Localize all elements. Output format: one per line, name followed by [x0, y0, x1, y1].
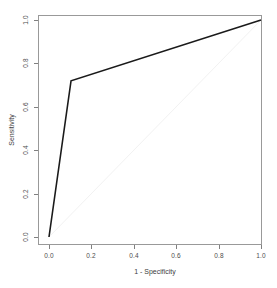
x-tick-label: 1.0 [256, 253, 266, 260]
y-tick-label: 0.2 [23, 189, 30, 199]
x-tick-label: 0.0 [44, 253, 54, 260]
x-tick-label: 0.6 [171, 253, 181, 260]
y-tick-label: 0.0 [23, 232, 30, 242]
x-tick-label: 0.4 [129, 253, 139, 260]
roc-curve-figure: 0.00.20.40.60.81.0 0.00.20.40.60.81.0 1 … [0, 0, 277, 288]
x-tick-label: 0.8 [214, 253, 224, 260]
y-axis-title: Sensitivity [8, 114, 15, 146]
x-axis-title: 1 - Specificity [134, 268, 176, 275]
y-tick-label: 0.8 [23, 58, 30, 68]
y-tick-label: 0.4 [23, 145, 30, 155]
y-tick-label: 0.6 [23, 102, 30, 112]
y-tick-label: 1.0 [23, 15, 30, 25]
x-tick-label: 0.2 [86, 253, 96, 260]
plot-canvas [0, 0, 277, 288]
